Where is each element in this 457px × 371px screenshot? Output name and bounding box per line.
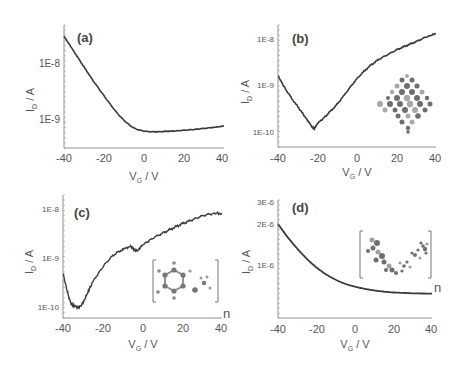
xtick-label: 40 [425,323,437,335]
xtick-label: 20 [178,152,190,164]
panel-a: (a) 1E-8 1E-9 -40 -20 0 20 40 ID / A VG … [24,25,228,184]
x-axis-title: VG / V [340,338,370,352]
ytick-label: 1E-8 [42,205,59,214]
repeat-subscript-n: n [434,280,441,295]
ytick-label: 1E-9 [39,114,61,125]
xtick-label: 0 [141,152,147,164]
xtick-label: 40 [216,152,228,164]
figure: (a) 1E-8 1E-9 -40 -20 0 20 40 ID / A VG … [0,0,457,371]
panel-c: (c) 1E-8 1E-9 1E-10 -40 -20 0 20 40 ID /… [23,195,230,352]
ytick-label: 1E-9 [257,81,274,90]
panel-b: (b) 1E-8 1E-9 1E-10 -40 -20 0 20 40 ID /… [239,25,441,180]
xtick-label: -40 [270,152,286,164]
x-axis-title: VG / V [128,338,158,352]
svg-text:ID / A: ID / A [240,249,254,274]
ytick-label: 3E-6 [257,198,274,207]
ytick-label: 1E-10 [253,128,275,137]
xtick-label: -20 [96,152,112,164]
xtick-label: 40 [429,152,441,164]
xtick-label: -20 [310,152,326,164]
molecule-inset-b [377,74,433,134]
ytick-label: 1E-8 [257,35,274,44]
ytick-label: 1E-6 [257,261,274,270]
molecule-inset-c [153,260,218,302]
xtick-label: 0 [352,323,358,335]
xtick-label: -40 [55,322,71,334]
data-line-a [64,36,224,132]
xtick-label: 40 [215,322,227,334]
xtick-label: -20 [95,322,111,334]
y-axis-title: ID / A [23,249,37,274]
panel-label-c: (c) [74,205,90,220]
repeat-subscript-n: n [223,306,230,321]
xtick-label: 0 [140,322,146,334]
y-axis-title: ID / A [239,79,253,104]
ytick-label: 1E-9 [42,254,59,263]
panel-label-d: (d) [292,200,309,215]
svg-text:ID / A: ID / A [239,79,253,104]
x-axis-title: VG / V [342,166,372,180]
molecule-inset-d [360,231,431,278]
panel-label-a: (a) [77,30,93,45]
xtick-label: -40 [56,152,72,164]
ytick-label: 2E-6 [257,220,274,229]
xtick-label: -20 [309,323,325,335]
data-line-c [63,212,222,308]
xtick-label: 20 [177,322,189,334]
y-axis-title: ID / A [24,87,38,112]
svg-text:ID / A: ID / A [23,249,37,274]
panel-d: (d) 3E-6 2E-6 1E-6 -40 -20 0 20 40 ID / … [240,198,441,352]
data-line-d [278,224,432,294]
xtick-label: 0 [354,152,360,164]
y-axis-title: ID / A [240,249,254,274]
svg-text:ID / A: ID / A [24,87,38,112]
panel-label-b: (b) [292,31,309,46]
xtick-label: 20 [388,323,400,335]
ytick-label: 1E-10 [38,303,60,312]
xtick-label: 20 [391,152,403,164]
x-axis-title: VG / V [129,170,159,184]
xtick-label: -40 [270,323,286,335]
ytick-label: 1E-8 [39,58,61,69]
